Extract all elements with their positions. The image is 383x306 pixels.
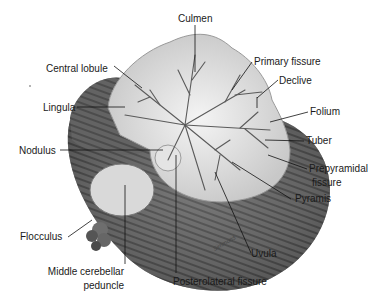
label-prepyramidal-fissure-line1: Prepyramidal <box>309 163 368 174</box>
stray-dot <box>29 85 31 87</box>
label-primary-fissure: Primary fissure <box>254 56 321 67</box>
label-central-lobule: Central lobule <box>46 63 108 74</box>
label-culmen: Culmen <box>178 13 212 24</box>
label-prepyramidal-fissure-line2: fissure <box>312 177 341 188</box>
label-middle-cerebellar-peduncle-line1: Middle cerebellar <box>40 266 124 277</box>
cerebellum-diagram: Culmen Central lobule Primary fissure De… <box>0 0 383 306</box>
cerebellum-illustration <box>0 0 383 306</box>
label-posterolateral-fissure: Posterolateral fissure <box>173 276 267 287</box>
peduncle-shape <box>90 164 154 216</box>
label-flocculus: Flocculus <box>20 231 62 242</box>
label-middle-cerebellar-peduncle-line2: peduncle <box>40 280 124 291</box>
label-declive: Declive <box>279 75 312 86</box>
label-pyramis: Pyramis <box>295 193 331 204</box>
label-lingula: Lingula <box>43 102 75 113</box>
label-uvula: Uvula <box>251 248 277 259</box>
label-nodulus: Nodulus <box>19 145 56 156</box>
label-folium: Folium <box>310 106 340 117</box>
label-tuber: Tuber <box>306 135 332 146</box>
